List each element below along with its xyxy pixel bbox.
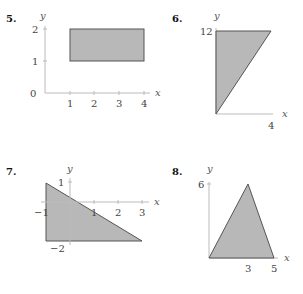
problem-5-x-label: x (155, 87, 161, 98)
problem-6: 6. y x 12 4 (172, 10, 288, 131)
problem-7: 7. y x 1 −2 −1 1 2 3 (6, 163, 160, 254)
problem-8-number: 8. (172, 166, 182, 177)
problem-5-x-tick-label: 3 (116, 98, 122, 109)
problem-5-y-tick-label: 0 (30, 88, 36, 99)
problem-5: 5. y x 2 1 0 1 2 3 4 (6, 10, 161, 109)
problem-5-y-tick-label: 2 (32, 24, 38, 35)
problem-7-y-label: y (66, 163, 73, 174)
problem-8: 8. y x 6 3 5 (172, 163, 290, 274)
problem-7-y-tick-label: 1 (58, 177, 64, 188)
problem-7-x-label: x (154, 196, 160, 207)
problem-8-x-tick-label: 5 (271, 263, 277, 274)
problem-6-y-label: y (213, 10, 220, 21)
problem-7-x-tick-label: 3 (139, 207, 145, 218)
problem-6-y-tick-label: 12 (200, 26, 213, 37)
problem-7-x-tick-label: 2 (115, 207, 121, 218)
problem-5-x-tick-label: 1 (67, 98, 73, 109)
problem-6-x-tick-label: 4 (268, 120, 274, 131)
problem-8-y-tick-label: 6 (198, 179, 204, 190)
problem-8-x-tick-label: 3 (245, 263, 251, 274)
problem-7-x-tick-label: −1 (34, 207, 49, 218)
figure-canvas: 5. y x 2 1 0 1 2 3 4 6. y x 12 4 7. y (0, 0, 303, 294)
problem-6-number: 6. (172, 13, 182, 24)
problem-8-y-label: y (206, 163, 213, 174)
problem-5-x-tick-label: 4 (141, 98, 147, 109)
problem-8-triangle-region (209, 184, 274, 258)
problem-7-y-tick-label: −2 (50, 243, 65, 254)
problem-5-y-label: y (39, 10, 46, 21)
problem-5-y-tick-label: 1 (32, 56, 38, 67)
problem-6-triangle-region (216, 31, 271, 114)
problem-5-rectangle-region (70, 29, 144, 61)
problem-7-number: 7. (6, 166, 16, 177)
problem-5-x-tick-label: 2 (91, 98, 97, 109)
problem-5-number: 5. (6, 13, 16, 24)
problem-6-x-label: x (282, 108, 288, 119)
problem-7-x-tick-label: 1 (91, 207, 97, 218)
problem-8-x-label: x (284, 252, 290, 263)
